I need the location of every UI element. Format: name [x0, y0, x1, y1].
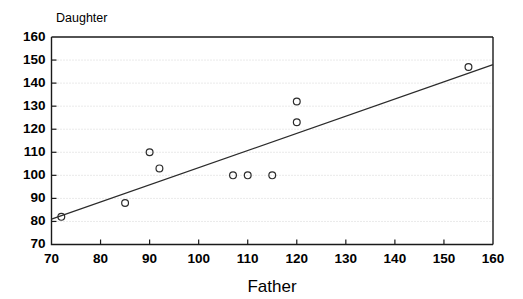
data-point: [122, 200, 129, 207]
chart-canvas: 708090100110120130140150160 708090100110…: [0, 0, 523, 299]
data-point: [293, 119, 300, 126]
y-axis-tickmarks: [52, 60, 57, 221]
xtick-label-80: 80: [93, 251, 108, 266]
y-axis-title: Daughter: [56, 11, 107, 25]
ytick-label-130: 130: [23, 98, 46, 113]
xtick-label-130: 130: [335, 251, 358, 266]
data-point: [465, 64, 472, 71]
data-point: [293, 98, 300, 105]
gridlines: [52, 60, 494, 221]
x-axis-tickmarks: [101, 240, 444, 245]
ytick-label-70: 70: [30, 236, 45, 251]
xtick-label-110: 110: [237, 251, 259, 266]
regression-line: [52, 65, 494, 219]
data-point: [156, 165, 163, 172]
data-point: [269, 172, 276, 179]
ytick-label-160: 160: [23, 29, 46, 44]
xtick-label-150: 150: [433, 251, 456, 266]
x-axis-labels: 708090100110120130140150160: [44, 251, 504, 266]
ytick-label-140: 140: [23, 75, 46, 90]
xtick-label-70: 70: [44, 251, 59, 266]
ytick-label-90: 90: [30, 190, 45, 205]
axis-lines: [52, 37, 494, 245]
x-axis-title: Father: [247, 277, 296, 296]
xtick-label-90: 90: [142, 251, 157, 266]
scatter-chart: 708090100110120130140150160 708090100110…: [0, 0, 523, 299]
xtick-label-160: 160: [482, 251, 505, 266]
ytick-label-80: 80: [30, 213, 45, 228]
ytick-label-120: 120: [23, 121, 46, 136]
xtick-label-120: 120: [286, 251, 309, 266]
y-axis-labels: 708090100110120130140150160: [23, 29, 46, 252]
xtick-label-100: 100: [187, 251, 210, 266]
ytick-label-150: 150: [23, 52, 46, 67]
ytick-label-110: 110: [24, 144, 46, 159]
xtick-label-140: 140: [384, 251, 407, 266]
data-points: [58, 64, 472, 221]
ytick-label-100: 100: [23, 167, 46, 182]
data-point: [146, 149, 153, 156]
